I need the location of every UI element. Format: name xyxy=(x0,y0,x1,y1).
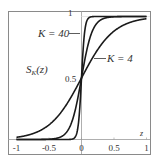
x-tick-label: 0.5 xyxy=(108,143,120,153)
sigmoid-chart: 1 0.5 z K = 40 K = 4 SK(z) -1-0.500.51 xyxy=(0,0,159,167)
label-k4: K = 4 xyxy=(106,52,133,64)
function-label: SK(z) xyxy=(26,63,48,77)
x-tick-label: 0 xyxy=(79,143,84,153)
x-tick-label: 1 xyxy=(144,143,149,153)
y-tick-1: 1 xyxy=(68,8,73,18)
x-tick-label: -1 xyxy=(13,143,21,153)
y-tick-0.5: 0.5 xyxy=(65,74,77,84)
x-tick-label: -0.5 xyxy=(42,143,57,153)
label-k40: K = 40 xyxy=(37,27,70,39)
